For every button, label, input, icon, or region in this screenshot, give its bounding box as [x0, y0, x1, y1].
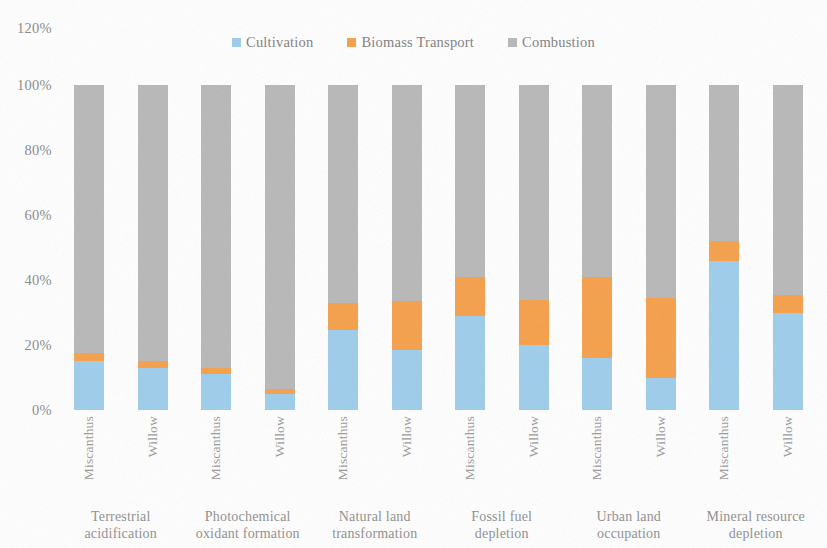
bar-segment-cultivation — [328, 330, 358, 410]
bar-segment-biomass-transport — [709, 241, 739, 261]
bar-2 — [138, 85, 168, 410]
bar-segment-biomass-transport — [646, 298, 676, 378]
bar-segment-biomass-transport — [519, 300, 549, 346]
bar-9 — [582, 85, 612, 410]
bar-segment-combustion — [138, 85, 168, 361]
y-tick-120: 120% — [17, 20, 52, 37]
bar-1 — [74, 85, 104, 410]
bar-4 — [265, 85, 295, 410]
x-tick-willow-4: Willow — [265, 416, 295, 502]
bar-segment-cultivation — [646, 378, 676, 411]
x-tick-miscanthus-9: Miscanthus — [582, 416, 612, 502]
x-tick-miscanthus-7: Miscanthus — [455, 416, 485, 502]
x-tick-label-text: Miscanthus — [81, 416, 97, 480]
bar-segment-combustion — [265, 85, 295, 389]
bar-12 — [773, 85, 803, 410]
bar-segment-combustion — [773, 85, 803, 295]
bar-segment-combustion — [201, 85, 231, 368]
bar-10 — [646, 85, 676, 410]
y-tick-20: 20% — [25, 337, 52, 354]
bar-6 — [392, 85, 422, 410]
y-tick-0: 0% — [32, 402, 52, 419]
x-tick-miscanthus-11: Miscanthus — [709, 416, 739, 502]
bar-segment-cultivation — [709, 261, 739, 411]
y-axis: 120% 100% 80% 60% 40% 20% 0% — [0, 0, 62, 548]
bar-segment-combustion — [709, 85, 739, 241]
bar-5 — [328, 85, 358, 410]
y-tick-40: 40% — [25, 272, 52, 289]
group-label-6: Mineral resourcedepletion — [681, 508, 827, 542]
x-tick-willow-10: Willow — [646, 416, 676, 502]
y-tick-60: 60% — [25, 207, 52, 224]
x-tick-miscanthus-1: Miscanthus — [74, 416, 104, 502]
bar-segment-cultivation — [265, 394, 295, 410]
x-tick-label-text: Willow — [399, 416, 415, 457]
bar-segment-cultivation — [519, 345, 549, 410]
bar-segment-cultivation — [392, 350, 422, 410]
x-tick-willow-2: Willow — [138, 416, 168, 502]
x-tick-label-text: Willow — [272, 416, 288, 457]
bar-segment-cultivation — [773, 313, 803, 411]
bar-segment-biomass-transport — [582, 277, 612, 358]
bar-segment-cultivation — [455, 316, 485, 410]
bar-segment-biomass-transport — [328, 303, 358, 331]
group-label-line2: depletion — [681, 525, 827, 542]
x-tick-label-text: Willow — [780, 416, 796, 457]
bar-segment-biomass-transport — [74, 353, 104, 361]
x-tick-label-text: Willow — [145, 416, 161, 457]
bar-segment-combustion — [392, 85, 422, 301]
bar-8 — [519, 85, 549, 410]
bar-segment-cultivation — [138, 368, 168, 410]
x-tick-label-text: Miscanthus — [208, 416, 224, 480]
bar-segment-biomass-transport — [392, 301, 422, 350]
bar-segment-cultivation — [74, 361, 104, 410]
x-tick-label-text: Willow — [526, 416, 542, 457]
x-tick-label-text: Willow — [653, 416, 669, 457]
bar-segment-biomass-transport — [773, 295, 803, 313]
bar-segment-combustion — [646, 85, 676, 298]
bar-segment-combustion — [582, 85, 612, 277]
x-tick-label-text: Miscanthus — [716, 416, 732, 480]
x-tick-willow-6: Willow — [392, 416, 422, 502]
bar-segment-combustion — [328, 85, 358, 303]
y-tick-100: 100% — [17, 77, 52, 94]
x-tick-willow-8: Willow — [519, 416, 549, 502]
bar-segment-combustion — [455, 85, 485, 277]
x-tick-willow-12: Willow — [773, 416, 803, 502]
y-tick-80: 80% — [25, 142, 52, 159]
bar-segment-cultivation — [201, 374, 231, 410]
bar-7 — [455, 85, 485, 410]
bar-3 — [201, 85, 231, 410]
bar-segment-combustion — [519, 85, 549, 300]
bar-segment-combustion — [74, 85, 104, 353]
bar-11 — [709, 85, 739, 410]
x-tick-label-text: Miscanthus — [589, 416, 605, 480]
group-label-line1: Mineral resource — [681, 508, 827, 525]
bar-segment-biomass-transport — [455, 277, 485, 316]
x-tick-miscanthus-3: Miscanthus — [201, 416, 231, 502]
stacked-bar-chart: Cultivation Biomass Transport Combustion… — [0, 0, 827, 548]
bar-segment-cultivation — [582, 358, 612, 410]
x-tick-label-text: Miscanthus — [335, 416, 351, 480]
x-tick-miscanthus-5: Miscanthus — [328, 416, 358, 502]
x-tick-label-text: Miscanthus — [462, 416, 478, 480]
